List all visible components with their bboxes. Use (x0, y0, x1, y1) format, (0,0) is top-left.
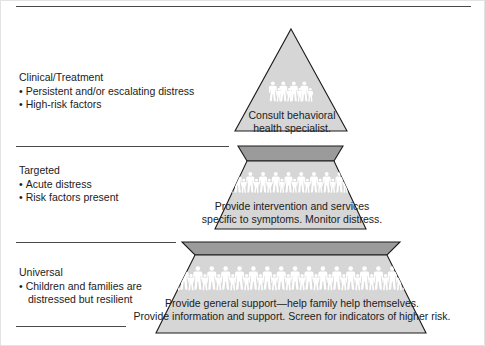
family-silhouette (221, 172, 234, 193)
tier-text-clinical: Consult behavioral health specialist. (227, 109, 357, 135)
family-silhouette (165, 266, 180, 290)
family-silhouette (348, 172, 361, 193)
tier-text-line: Provide information and support. Screen … (122, 310, 462, 323)
tier-text-line: specific to symptoms. Monitor distress. (158, 213, 426, 226)
tier-text-line: Consult behavioral (227, 109, 357, 122)
tier-targeted-shadow (238, 146, 343, 161)
pyramid-figure: Clinical/Treatment •Persistent and/or es… (0, 0, 485, 346)
tier-text-targeted: Provide intervention and services specif… (158, 200, 426, 226)
tier-universal-shadow (182, 242, 400, 255)
tier-text-universal: Provide general support—help family help… (122, 297, 462, 323)
pyramid-graphic (1, 1, 485, 346)
tier-text-line: Provide intervention and services (158, 200, 426, 213)
family-silhouette (402, 266, 417, 290)
tier-text-line: health specialist. (227, 122, 357, 135)
tier-text-line: Provide general support—help family help… (122, 297, 462, 310)
